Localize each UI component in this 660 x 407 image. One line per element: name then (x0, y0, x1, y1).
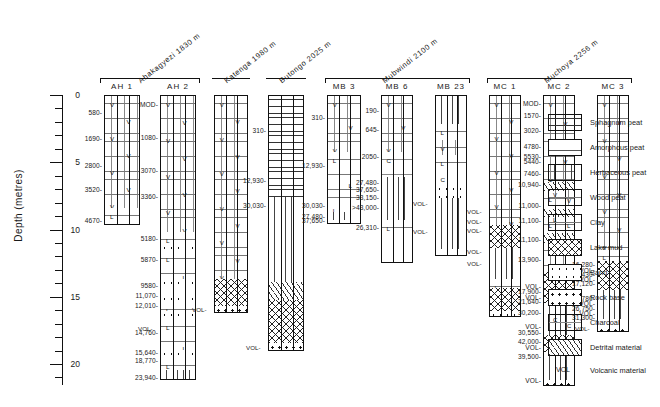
lithology-glyph: V (166, 102, 170, 108)
lithology-unit-clay: L (161, 232, 195, 244)
legend-volcanic-tag: VOL (556, 366, 570, 373)
legend-swatch-sand (548, 264, 582, 281)
legend-label: Clay (590, 218, 605, 227)
lithology-unit-clay: LL (161, 251, 195, 279)
axis-tick (55, 149, 62, 150)
lithology-glyph: V (166, 174, 170, 180)
radiocarbon-date-label: 5870‐ (141, 256, 158, 263)
depth-axis: 05101520 Depth (metres) (0, 0, 80, 407)
lithology-glyph: V (220, 206, 224, 212)
lithology-unit-lakemud (490, 288, 520, 311)
radiocarbon-date-label: 3070‐ (141, 167, 158, 174)
lithology-glyph: V (220, 171, 224, 177)
lithology-unit-sand (436, 185, 466, 198)
axis-tick (55, 310, 62, 311)
lithology-glyph: L (440, 161, 443, 167)
radiocarbon-date-label: 10,940‐ (518, 181, 541, 188)
lithology-unit-rockbase (215, 306, 247, 313)
lithology-glyph: V (110, 136, 114, 142)
axis-tick (55, 189, 62, 190)
axis-tick (55, 243, 62, 244)
axis-tick (55, 256, 62, 257)
radiocarbon-date-label: VOL‐ (525, 377, 541, 384)
radiocarbon-date-label: 190‐ (365, 107, 379, 114)
legend-swatch-clay: LL (548, 214, 582, 231)
legend-item-group: Sphagnum peatAmorphous peatHerbaceous pe… (548, 112, 660, 362)
legend-item-sand: Sand (548, 262, 660, 287)
volcanic-marker: VOL‐ (467, 208, 481, 215)
axis-tick (55, 351, 62, 352)
radiocarbon-date-label: MOD‐ (523, 100, 541, 107)
legend-label: Charcoal (590, 318, 620, 327)
column-rule (511, 96, 512, 316)
legend-label: Sphagnum peat (590, 118, 642, 127)
axis-tick (55, 377, 62, 378)
lithology-unit-woodpeat: VVVVVVVV (161, 96, 195, 232)
radiocarbon-date-label: 1690‐ (85, 135, 102, 142)
core-column-label: MC 2 (547, 82, 570, 91)
radiocarbon-date-label: 1570‐ (524, 112, 541, 119)
legend-swatch-woodpeat: VV (548, 189, 582, 206)
legend-swatch-sphagnum (548, 114, 582, 131)
legend-label: Lake mud (590, 243, 622, 252)
lithology-glyph: V (220, 102, 224, 108)
axis-tick (55, 135, 62, 136)
core-column-label: MC 1 (493, 82, 516, 91)
radiocarbon-date-label: 3520‐ (85, 186, 102, 193)
radiocarbon-date-label: 310‐ (252, 127, 266, 134)
axis-title: Depth (metres) (13, 136, 24, 276)
core-column-label: MB 23 (437, 82, 465, 91)
lithology-glyph: L (166, 325, 169, 331)
legend-volcanic-label: Volcanic material (590, 366, 646, 375)
radiocarbon-date-label: 37,650‐ (302, 217, 325, 224)
lithology-unit-woodpeat: VVV (328, 96, 360, 152)
core-column-body: VVVVVVVVL (489, 95, 521, 317)
radiocarbon-date-label: 33,150‐ (356, 194, 379, 201)
core-column-body: LVLCC (435, 95, 467, 256)
lithology-glyph: C (440, 255, 444, 256)
core-column-label: MC 3 (601, 82, 624, 91)
lithology-glyph: L (440, 130, 443, 136)
legend-glyph: C (553, 317, 557, 323)
radiocarbon-date-label: 2800‐ (85, 162, 102, 169)
legend-swatch-amorphous (548, 139, 582, 156)
column-rule (293, 96, 294, 350)
lithology-unit-charcoal: C (436, 171, 466, 184)
lithology-unit-herbaceous (436, 198, 466, 249)
lithology-glyph: V (494, 102, 498, 108)
radiocarbon-date-label: 645‐ (365, 126, 379, 133)
lithology-glyph: V (110, 102, 114, 108)
volcanic-marker: VOL‐ (192, 306, 206, 313)
axis-tick (55, 337, 62, 338)
column-rule (173, 96, 174, 379)
lithology-glyph: V (166, 210, 170, 216)
legend-glyph: L (567, 223, 570, 229)
lithology-glyph: L (166, 257, 169, 263)
radiocarbon-date-label: 30,030‐ (243, 202, 266, 209)
lithology-unit-sand (161, 311, 195, 319)
axis-tick-label: 0 (46, 90, 80, 100)
radiocarbon-date-label: 3360‐ (141, 193, 158, 200)
radiocarbon-date-label: 30,550‐ (518, 329, 541, 336)
radiocarbon-date-label: 1080‐ (141, 134, 158, 141)
radiocarbon-date-label: 11,000‐ (518, 202, 541, 209)
volcanic-marker: VOL‐ (467, 260, 481, 267)
lithology-glyph: V (548, 102, 552, 108)
lithology-unit-clay: L (436, 124, 466, 140)
volcanic-marker: VOL‐ (467, 218, 481, 225)
legend-label: Herbaceous peat (590, 168, 646, 177)
lithology-glyph: C (386, 158, 390, 164)
lithology-glyph: V (494, 136, 498, 142)
radiocarbon-date-label: 7460‐ (524, 170, 541, 177)
legend-item-rockbase: Rock base (548, 287, 660, 312)
axis-tick (55, 324, 62, 325)
column-rule (393, 96, 394, 262)
column-rule (339, 96, 340, 223)
lithology-unit-woodpeat: VVV (382, 96, 412, 152)
lithology-unit-sphagnum (269, 96, 303, 197)
axis-tick (55, 203, 62, 204)
legend-item-charcoal: CCCharcoal (548, 312, 660, 337)
radiocarbon-date-label: 15,640‐ (135, 349, 158, 356)
column-rule (226, 96, 227, 312)
radiocarbon-date-label: 30,030‐ (302, 202, 325, 209)
